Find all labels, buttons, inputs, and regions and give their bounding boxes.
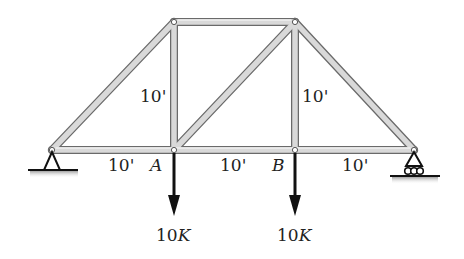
pin-joint-a bbox=[171, 147, 176, 152]
pin-support-icon bbox=[28, 152, 78, 178]
load-value-a: 10K bbox=[156, 225, 190, 245]
height-label-left: 10' bbox=[140, 88, 166, 105]
joint-label-b: B bbox=[272, 157, 285, 174]
span-label-1: 10' bbox=[108, 157, 134, 174]
span-label-2: 10' bbox=[220, 157, 246, 174]
roller-support-icon bbox=[390, 152, 440, 184]
pin-top-left bbox=[171, 19, 176, 24]
load-arrow-a bbox=[168, 153, 180, 216]
load-label-a: 10K bbox=[156, 227, 190, 244]
pin-joint-b bbox=[292, 147, 297, 152]
load-value-b: 10K bbox=[277, 225, 311, 245]
pin-top-right bbox=[292, 19, 297, 24]
height-label-right: 10' bbox=[302, 88, 328, 105]
joint-label-a: A bbox=[150, 157, 162, 174]
truss-members bbox=[52, 20, 414, 150]
span-label-3: 10' bbox=[342, 157, 368, 174]
truss-diagram bbox=[0, 0, 464, 259]
load-label-b: 10K bbox=[277, 227, 311, 244]
load-arrow-b bbox=[289, 153, 301, 216]
